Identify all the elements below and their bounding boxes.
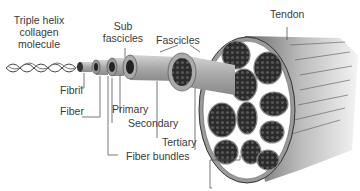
label-tertiary: Tertiary xyxy=(162,136,196,148)
label-subfascicles: Sub fascicles xyxy=(98,20,148,44)
label-fascicles: Fascicles xyxy=(156,34,200,46)
label-fiber: Fiber xyxy=(60,105,84,117)
tendon-body xyxy=(199,36,358,183)
fibril-tube xyxy=(77,62,92,72)
label-fibril: Fibril xyxy=(60,84,83,96)
primary-tube xyxy=(107,58,124,76)
fiber-tube xyxy=(92,60,108,75)
label-collagen-line3: molecule xyxy=(8,38,70,50)
label-sub-line1: Sub xyxy=(98,20,148,32)
label-secondary: Secondary xyxy=(128,117,178,129)
triple-helix-icon xyxy=(6,63,78,72)
label-sub-line2: fascicles xyxy=(98,32,148,44)
label-primary: Primary xyxy=(112,103,148,115)
label-collagen-molecule: Triple helix collagen molecule xyxy=(8,14,70,50)
label-collagen-line2: collagen xyxy=(8,26,70,38)
label-fiber-bundles: Fiber bundles xyxy=(126,150,190,162)
label-tendon: Tendon xyxy=(270,8,304,20)
label-collagen-line1: Triple helix xyxy=(8,14,70,26)
